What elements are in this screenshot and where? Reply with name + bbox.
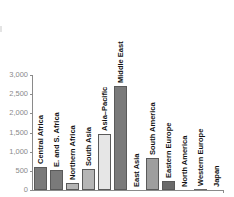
bar	[146, 158, 159, 190]
category-label: East Asia	[133, 154, 141, 188]
category-label: Middle East	[117, 41, 125, 83]
category-label: South Asia	[85, 127, 93, 166]
bar	[82, 169, 95, 190]
y-tick-label: 2,000	[0, 109, 28, 117]
category-label: E. and S. Africa	[53, 112, 61, 167]
bar	[66, 183, 79, 190]
category-label: Central Africa	[37, 115, 45, 164]
y-tick	[30, 113, 33, 114]
category-label: Japan	[213, 165, 221, 187]
bar	[98, 134, 111, 190]
category-label: South America	[149, 103, 157, 156]
y-tick	[30, 133, 33, 134]
bar	[162, 181, 175, 190]
y-tick-label: 1,500	[0, 129, 28, 137]
category-label: Asia–Pacific	[101, 87, 109, 131]
y-tick	[30, 94, 33, 95]
bar	[194, 189, 207, 190]
x-axis-end-tick	[223, 190, 224, 193]
y-tick	[30, 190, 33, 191]
category-label: Northern Africa	[69, 125, 77, 180]
category-label: Eastern Europe	[165, 123, 173, 178]
bar	[34, 167, 47, 190]
bar	[114, 86, 127, 190]
category-label: Western Europe	[197, 128, 205, 185]
y-tick-label: 0	[0, 186, 28, 194]
x-axis	[32, 190, 224, 191]
y-tick-label: 1,000	[0, 148, 28, 156]
y-tick-label: 2,500	[0, 90, 28, 98]
y-tick	[30, 152, 33, 153]
y-tick-label: 500	[0, 167, 28, 175]
category-label: North America	[181, 136, 189, 187]
bar	[50, 170, 63, 190]
bar-chart: 05001,0001,5002,0002,5003,000 Central Af…	[0, 0, 234, 197]
y-tick-label: 3,000	[0, 71, 28, 79]
y-tick	[30, 171, 33, 172]
y-tick	[30, 75, 33, 76]
